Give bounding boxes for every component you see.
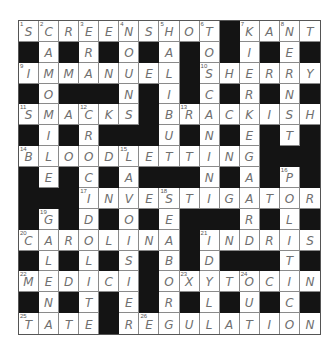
letter-cell[interactable]: O — [119, 209, 139, 230]
letter-cell[interactable]: I — [240, 42, 260, 63]
letter-cell[interactable]: E — [139, 188, 159, 209]
letter-cell[interactable]: R — [280, 63, 300, 84]
letter-cell[interactable]: 13R — [180, 104, 200, 125]
letter-cell[interactable]: N — [220, 230, 240, 251]
letter-cell[interactable]: T — [180, 146, 200, 167]
letter-cell[interactable]: N — [200, 125, 220, 146]
letter-cell[interactable]: O — [119, 42, 139, 63]
letter-cell[interactable]: A — [220, 313, 240, 334]
letter-cell[interactable]: U — [159, 125, 179, 146]
letter-cell[interactable]: A — [79, 63, 99, 84]
letter-cell[interactable]: G — [240, 146, 260, 167]
letter-cell[interactable]: N — [300, 313, 320, 334]
letter-cell[interactable]: R — [79, 125, 99, 146]
letter-cell[interactable]: A — [59, 104, 79, 125]
letter-cell[interactable]: T — [260, 188, 280, 209]
letter-cell[interactable]: 23X — [180, 271, 200, 292]
letter-cell[interactable]: D — [79, 209, 99, 230]
letter-cell[interactable]: E — [39, 271, 59, 292]
letter-cell[interactable]: E — [99, 21, 119, 42]
letter-cell[interactable]: A — [159, 42, 179, 63]
letter-cell[interactable]: 6T — [200, 21, 220, 42]
letter-cell[interactable]: A — [240, 188, 260, 209]
letter-cell[interactable]: 2C — [39, 21, 59, 42]
letter-cell[interactable]: L — [99, 230, 119, 251]
letter-cell[interactable]: C — [99, 271, 119, 292]
letter-cell[interactable]: O — [59, 146, 79, 167]
letter-cell[interactable]: G — [220, 188, 240, 209]
letter-cell[interactable]: L — [79, 251, 99, 272]
letter-cell[interactable]: I — [260, 104, 280, 125]
letter-cell[interactable]: R — [260, 63, 280, 84]
letter-cell[interactable]: M — [39, 63, 59, 84]
letter-cell[interactable]: I — [200, 188, 220, 209]
letter-cell[interactable]: O — [180, 21, 200, 42]
letter-cell[interactable]: E — [280, 42, 300, 63]
letter-cell[interactable]: I — [260, 313, 280, 334]
letter-cell[interactable]: A — [240, 167, 260, 188]
letter-cell[interactable]: N — [99, 63, 119, 84]
letter-cell[interactable]: L — [280, 209, 300, 230]
letter-cell[interactable]: E — [240, 125, 260, 146]
letter-cell[interactable]: C — [220, 104, 240, 125]
letter-cell[interactable]: B — [159, 104, 179, 125]
letter-cell[interactable]: O — [79, 146, 99, 167]
letter-cell[interactable]: T — [159, 146, 179, 167]
letter-cell[interactable]: L — [39, 146, 59, 167]
letter-cell[interactable]: T — [280, 251, 300, 272]
letter-cell[interactable]: D — [240, 230, 260, 251]
letter-cell[interactable]: 4N — [119, 21, 139, 42]
letter-cell[interactable]: 9I — [19, 63, 39, 84]
letter-cell[interactable]: E — [159, 209, 179, 230]
letter-cell[interactable]: O — [280, 313, 300, 334]
letter-cell[interactable]: 20C — [19, 230, 39, 251]
letter-cell[interactable]: E — [119, 292, 139, 313]
letter-cell[interactable]: O — [39, 84, 59, 105]
letter-cell[interactable]: B — [159, 251, 179, 272]
letter-cell[interactable]: L — [159, 63, 179, 84]
letter-cell[interactable]: T — [59, 313, 79, 334]
letter-cell[interactable]: A — [39, 313, 59, 334]
letter-cell[interactable]: V — [119, 188, 139, 209]
letter-cell[interactable]: I — [280, 271, 300, 292]
letter-cell[interactable]: 25T — [19, 313, 39, 334]
letter-cell[interactable]: 17I — [79, 188, 99, 209]
letter-cell[interactable]: E — [139, 63, 159, 84]
letter-cell[interactable]: H — [300, 104, 320, 125]
letter-cell[interactable]: R — [159, 292, 179, 313]
letter-cell[interactable]: M — [39, 104, 59, 125]
letter-cell[interactable]: I — [39, 125, 59, 146]
letter-cell[interactable]: R — [240, 209, 260, 230]
letter-cell[interactable]: O — [159, 271, 179, 292]
letter-cell[interactable]: D — [200, 251, 220, 272]
letter-cell[interactable]: T — [300, 21, 320, 42]
letter-cell[interactable]: R — [59, 230, 79, 251]
letter-cell[interactable]: K — [240, 104, 260, 125]
letter-cell[interactable]: 18S — [159, 188, 179, 209]
letter-cell[interactable]: U — [240, 292, 260, 313]
letter-cell[interactable]: L — [39, 251, 59, 272]
letter-cell[interactable]: C — [260, 271, 280, 292]
letter-cell[interactable]: A — [159, 230, 179, 251]
letter-cell[interactable]: 14B — [19, 146, 39, 167]
letter-cell[interactable]: O — [280, 188, 300, 209]
letter-cell[interactable]: C — [280, 292, 300, 313]
letter-cell[interactable]: I — [79, 271, 99, 292]
letter-cell[interactable]: D — [59, 271, 79, 292]
letter-cell[interactable]: 5H — [159, 21, 179, 42]
letter-cell[interactable]: 12C — [79, 104, 99, 125]
letter-cell[interactable]: N — [280, 84, 300, 105]
letter-cell[interactable]: T — [280, 125, 300, 146]
letter-cell[interactable]: Y — [200, 271, 220, 292]
letter-cell[interactable]: K — [99, 104, 119, 125]
letter-cell[interactable]: T — [79, 292, 99, 313]
letter-cell[interactable]: R — [79, 42, 99, 63]
letter-cell[interactable]: 22M — [19, 271, 39, 292]
letter-cell[interactable]: I — [119, 230, 139, 251]
letter-cell[interactable]: R — [260, 230, 280, 251]
letter-cell[interactable]: U — [119, 63, 139, 84]
letter-cell[interactable]: D — [99, 146, 119, 167]
letter-cell[interactable]: C — [200, 84, 220, 105]
letter-cell[interactable]: I — [280, 230, 300, 251]
letter-cell[interactable]: A — [39, 42, 59, 63]
